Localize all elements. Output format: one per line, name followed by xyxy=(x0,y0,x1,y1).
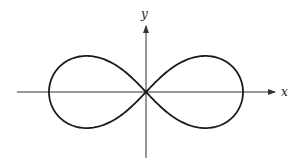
lemniscate-diagram: x y xyxy=(0,0,300,165)
origin-point xyxy=(144,90,147,93)
y-axis-label: y xyxy=(140,7,148,21)
x-axis-label: x xyxy=(281,85,288,99)
